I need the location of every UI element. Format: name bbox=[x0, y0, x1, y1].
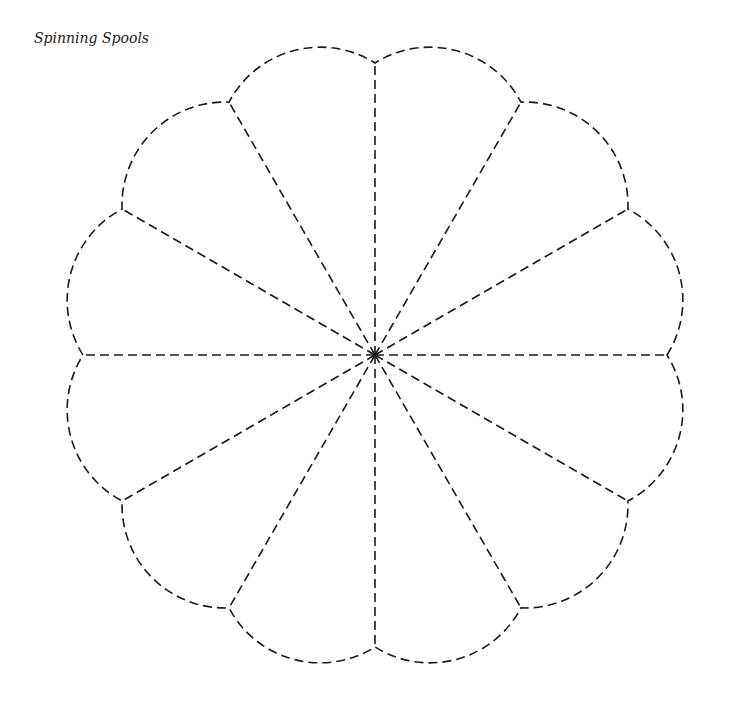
seam-line bbox=[122, 209, 375, 355]
seam-line bbox=[375, 102, 521, 355]
seam-line bbox=[375, 355, 628, 501]
seam-line bbox=[375, 209, 628, 355]
seam-line bbox=[375, 355, 521, 608]
seam-line bbox=[229, 102, 375, 355]
radial-seam-lines bbox=[83, 63, 667, 647]
seam-line bbox=[229, 355, 375, 608]
scalloped-plate-template bbox=[0, 0, 732, 716]
seam-line bbox=[122, 355, 375, 501]
